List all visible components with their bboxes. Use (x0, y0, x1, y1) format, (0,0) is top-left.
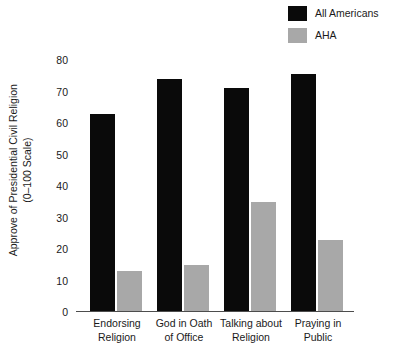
bar-aha (251, 202, 276, 312)
bar-all-americans (157, 79, 182, 312)
legend-item-all-americans: All Americans (288, 6, 379, 21)
y-axis-tick-10: 10 (56, 275, 68, 287)
y-axis-tick-40: 40 (56, 180, 68, 192)
y-axis-tick-70: 70 (56, 86, 68, 98)
bar-group (220, 60, 282, 312)
y-axis-tick-60: 60 (56, 117, 68, 129)
bar-all-americans (90, 114, 115, 312)
bar-aha (117, 271, 142, 312)
legend-item-aha: AHA (288, 28, 379, 43)
bar-aha (184, 265, 209, 312)
plot-area: 01020304050607080 (76, 60, 340, 312)
y-axis-tick-80: 80 (56, 54, 68, 66)
bar-all-americans (291, 74, 316, 312)
chart-legend: All Americans AHA (288, 6, 379, 43)
bar-group (287, 60, 349, 312)
legend-label-all-americans: All Americans (315, 8, 379, 19)
y-axis-label: Approve of Presidential Civil Religion (… (0, 0, 40, 340)
y-axis-tick-50: 50 (56, 149, 68, 161)
bar-group (153, 60, 215, 312)
chart-figure: All Americans AHA Approve of Presidentia… (0, 0, 416, 351)
bar-group (86, 60, 148, 312)
y-axis-label-line1: Approve of Presidential Civil Religion (6, 84, 20, 256)
bar-all-americans (224, 88, 249, 312)
bar-aha (318, 240, 343, 312)
legend-label-aha: AHA (315, 30, 337, 41)
y-axis-label-line2: (0–100 Scale) (20, 84, 34, 256)
y-axis-tick-20: 20 (56, 243, 68, 255)
legend-swatch-all-americans (288, 6, 307, 21)
x-axis-tick-label: Praying inPublic (268, 316, 368, 344)
legend-swatch-aha (288, 28, 307, 43)
y-axis-tick-30: 30 (56, 212, 68, 224)
x-axis-line (76, 311, 354, 312)
